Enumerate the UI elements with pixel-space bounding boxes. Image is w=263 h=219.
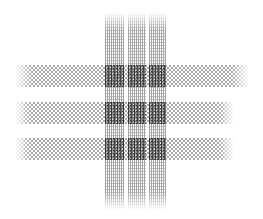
knot-3-1 [105,138,124,160]
knot-3-2 [128,138,146,160]
knot-1-2 [128,65,146,87]
knot-1-3 [149,65,166,87]
knot-2-3 [149,102,166,124]
knot-1-1 [105,65,124,87]
knot-2-1 [105,102,124,124]
knot-3-3 [149,138,166,160]
horizontal-band-2 [15,102,234,124]
horizontal-band-3 [15,138,234,160]
knot-2-2 [128,102,146,124]
pattern-canvas [0,0,263,219]
